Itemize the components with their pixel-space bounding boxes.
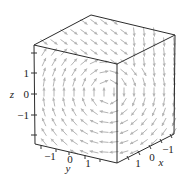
z-tick-neg1: −1 [17, 109, 29, 121]
vector-arrows [41, 20, 177, 155]
y-tick-1: 1 [85, 157, 91, 169]
y-axis-label: y [65, 162, 71, 174]
x-tick-0: 0 [149, 151, 155, 163]
z-tick-1: 1 [24, 67, 30, 79]
z-tick-0: 0 [24, 88, 30, 100]
y-tick-neg1: −1 [44, 150, 56, 162]
z-axis: 1 0 −1 z [9, 53, 37, 135]
x-axis-label: x [158, 156, 164, 168]
x-tick-1: 1 [135, 157, 141, 169]
x-tick-neg1: −1 [162, 143, 174, 155]
z-axis-label: z [9, 88, 15, 100]
vector-field-plot: 1 0 −1 z −1 0 1 y 1 0 −1 x [0, 0, 185, 186]
y-axis: −1 0 1 y [41, 145, 100, 174]
